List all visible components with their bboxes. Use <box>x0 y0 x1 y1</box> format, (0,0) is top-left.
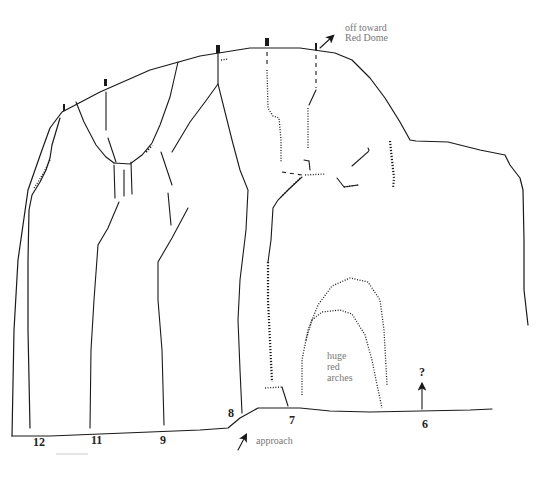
route-number-11: 11 <box>91 433 102 447</box>
belay-anchor-icon <box>104 79 107 86</box>
route-11-lower <box>90 202 119 428</box>
route-8-line <box>218 52 248 413</box>
climbing-topo-diagram: ? off toward Red Dome huge red arches ap… <box>0 0 544 477</box>
ledge-dash <box>282 172 302 175</box>
arches-note-line1: huge <box>327 350 347 361</box>
belay-anchor-icon <box>63 104 65 111</box>
route-9-lower <box>158 208 188 425</box>
ledge-hook <box>304 160 310 170</box>
arches-note-line2: red <box>327 361 340 372</box>
route-11-crack-b <box>114 165 115 198</box>
bolt-marks <box>221 59 228 60</box>
route-9-crack-a <box>161 152 172 185</box>
route-number-9: 9 <box>160 433 166 447</box>
dome-edge-heavy-hatch <box>390 141 394 188</box>
route-11-crack-a <box>108 138 116 162</box>
ledge-hatch <box>305 174 325 175</box>
route-7-upper-diagonal <box>268 177 302 262</box>
route-number-12: 12 <box>33 435 45 449</box>
route-number-8: 8 <box>228 406 234 420</box>
route-center-right-upper <box>309 90 316 105</box>
unknown-route-mark: ? <box>419 365 425 379</box>
route-central-hatch-upper <box>267 70 281 162</box>
ground-line <box>12 408 492 436</box>
belay-anchor-icon <box>216 45 220 53</box>
approach-arrow <box>238 435 246 450</box>
belay-anchor-icon <box>265 38 269 46</box>
belay-anchor-icon <box>315 43 317 50</box>
route-9-crack-b <box>168 193 171 225</box>
arches-note-line3: arches <box>327 372 353 383</box>
left-flake-line <box>28 118 60 428</box>
diagonal-crack-right <box>352 148 369 166</box>
route-7-heavy-hatch <box>268 262 272 382</box>
red-dome-arrow <box>320 36 333 48</box>
dome-outline <box>12 48 528 436</box>
route-11-upper-left <box>76 102 114 163</box>
route-number-6: 6 <box>422 417 428 431</box>
bowl-curve <box>114 62 178 164</box>
route-7-base-line <box>282 387 288 406</box>
route-9-upper <box>172 84 218 152</box>
route-7-base-ledge <box>265 387 282 388</box>
route-11-crack-d <box>131 162 132 194</box>
route-number-7: 7 <box>289 413 295 427</box>
approach-label: approach <box>256 435 293 446</box>
red-dome-note-line2: Red Dome <box>345 32 389 43</box>
